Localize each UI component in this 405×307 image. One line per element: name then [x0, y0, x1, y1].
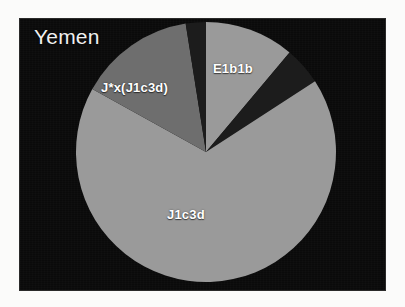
chart-title: Yemen [34, 25, 100, 49]
pie-container: E1b1b J*x(J1c3d) J1c3d [20, 19, 385, 290]
chart-panel: E1b1b J*x(J1c3d) J1c3d Yemen [20, 19, 385, 290]
pie-label-e1b1b: E1b1b [213, 61, 253, 76]
pie-svg [20, 19, 385, 290]
pie-chart-figure: E1b1b J*x(J1c3d) J1c3d Yemen [0, 0, 405, 307]
pie-label-j1c3d: J1c3d [167, 207, 205, 222]
pie-label-jx-j1c3d: J*x(J1c3d) [101, 80, 168, 95]
pie-slices-group [76, 22, 336, 282]
